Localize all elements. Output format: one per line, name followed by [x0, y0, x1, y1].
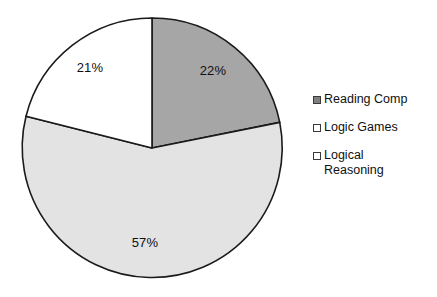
- legend-item-reading-comp[interactable]: Reading Comp: [313, 92, 437, 107]
- legend-swatch-icon-reading-comp: [313, 96, 321, 104]
- pie-label-reading-comp: 22%: [200, 63, 227, 78]
- pie-label-logic-games: 21%: [77, 60, 104, 75]
- pie-chart-area: 22% 57% 21%: [0, 0, 300, 297]
- legend-label-reading-comp: Reading Comp: [324, 92, 407, 107]
- legend-item-logic-games[interactable]: Logic Games: [313, 120, 437, 135]
- pie-label-logical-reasoning: 57%: [132, 235, 159, 250]
- pie-chart-screenshot: 22% 57% 21% Reading Comp Logic Games Log…: [0, 0, 437, 297]
- legend-label-logical-reasoning: Logical Reasoning: [324, 148, 394, 178]
- legend-swatch-icon-logic-games: [313, 124, 321, 132]
- pie-chart-svg: [0, 0, 300, 297]
- legend-label-logic-games: Logic Games: [324, 120, 398, 135]
- legend-swatch-icon-logical-reasoning: [313, 152, 321, 160]
- chart-legend: Reading Comp Logic Games Logical Reasoni…: [313, 92, 437, 191]
- legend-item-logical-reasoning[interactable]: Logical Reasoning: [313, 148, 437, 178]
